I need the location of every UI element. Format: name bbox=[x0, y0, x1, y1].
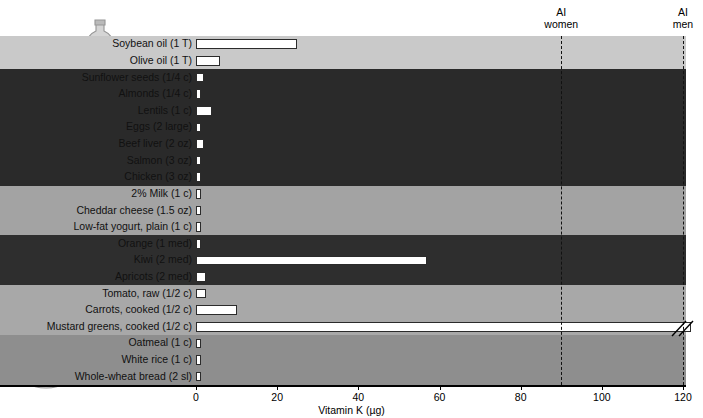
bar bbox=[196, 239, 201, 249]
category-label: Whole-wheat bread (2 sl) bbox=[0, 370, 192, 383]
bar bbox=[196, 272, 206, 282]
category-label: Lentils (1 c) bbox=[0, 104, 192, 117]
bar bbox=[196, 56, 220, 66]
category-label: White rice (1 c) bbox=[0, 353, 192, 366]
category-label: Chicken (3 oz) bbox=[0, 170, 192, 183]
bar bbox=[196, 73, 204, 83]
x-axis-tick bbox=[521, 385, 522, 390]
bar bbox=[196, 339, 201, 349]
category-label: Mustard greens, cooked (1/2 c) bbox=[0, 320, 192, 333]
bar bbox=[196, 305, 237, 315]
plot-area bbox=[196, 36, 686, 385]
category-label: Olive oil (1 T) bbox=[0, 54, 192, 67]
category-label: Beef liver (2 oz) bbox=[0, 137, 192, 150]
ai-men-line1: AI bbox=[648, 6, 703, 18]
x-axis-tick-label: 0 bbox=[176, 391, 216, 403]
category-label: Carrots, cooked (1/2 c) bbox=[0, 303, 192, 316]
bar bbox=[196, 106, 212, 116]
x-axis-tick bbox=[602, 385, 603, 390]
category-label: Sunflower seeds (1/4 c) bbox=[0, 71, 192, 84]
bar bbox=[196, 172, 201, 182]
ai-men-line2: men bbox=[648, 18, 703, 30]
axis-left-extension bbox=[0, 385, 196, 387]
bar bbox=[196, 139, 204, 149]
category-label: Soybean oil (1 T) bbox=[0, 37, 192, 50]
category-label: Kiwi (2 med) bbox=[0, 253, 192, 266]
category-label: Cheddar cheese (1.5 oz) bbox=[0, 204, 192, 217]
bar bbox=[196, 123, 201, 133]
x-axis-title: Vitamin K (µg) bbox=[0, 404, 703, 416]
category-label: Eggs (2 large) bbox=[0, 120, 192, 133]
bar bbox=[196, 372, 201, 382]
bar bbox=[196, 222, 201, 232]
ai-women-line1: AI bbox=[526, 6, 596, 18]
category-label: Salmon (3 oz) bbox=[0, 154, 192, 167]
ai-women-annotation-label: AI women bbox=[526, 6, 596, 30]
axis-break-marker bbox=[669, 320, 695, 342]
x-axis-tick bbox=[683, 385, 684, 390]
x-axis-tick-label: 60 bbox=[420, 391, 460, 403]
bar bbox=[196, 156, 201, 166]
vitamin-k-bar-chart: AI women AI men bbox=[0, 0, 703, 418]
category-label: Orange (1 med) bbox=[0, 237, 192, 250]
x-axis-tick-label: 40 bbox=[338, 391, 378, 403]
x-axis-tick-label: 80 bbox=[501, 391, 541, 403]
x-axis-tick-label: 120 bbox=[663, 391, 703, 403]
category-label: Oatmeal (1 c) bbox=[0, 336, 192, 349]
bar bbox=[196, 189, 201, 199]
x-axis-tick bbox=[358, 385, 359, 390]
bar bbox=[196, 289, 206, 299]
x-axis-line bbox=[196, 385, 686, 387]
bar bbox=[196, 355, 201, 365]
bar bbox=[196, 89, 201, 99]
category-label: 2% Milk (1 c) bbox=[0, 187, 192, 200]
bar bbox=[196, 322, 691, 332]
x-axis-tick bbox=[277, 385, 278, 390]
bar bbox=[196, 39, 297, 49]
category-label: Apricots (2 med) bbox=[0, 270, 192, 283]
bar bbox=[196, 206, 201, 216]
category-label: Tomato, raw (1/2 c) bbox=[0, 287, 192, 300]
ai-women-reference-line bbox=[561, 36, 562, 385]
x-axis-tick-label: 100 bbox=[582, 391, 622, 403]
ai-women-line2: women bbox=[526, 18, 596, 30]
ai-men-annotation-label: AI men bbox=[648, 6, 703, 30]
x-axis-tick-label: 20 bbox=[257, 391, 297, 403]
category-label: Low-fat yogurt, plain (1 c) bbox=[0, 220, 192, 233]
x-axis-tick bbox=[440, 385, 441, 390]
x-axis-tick bbox=[196, 385, 197, 390]
bar bbox=[196, 256, 427, 266]
category-label: Almonds (1/4 c) bbox=[0, 87, 192, 100]
